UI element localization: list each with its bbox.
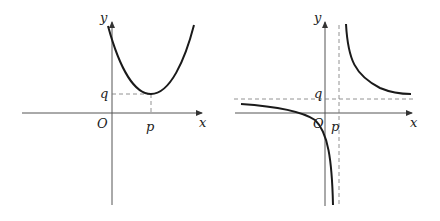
origin-label: O (97, 116, 108, 131)
y-label: y (313, 10, 322, 25)
parabola-curve (108, 25, 194, 94)
hyperbola-upper-branch (346, 24, 411, 94)
figure: y x O p q y x O p q (0, 0, 440, 221)
q-label: q (314, 86, 322, 101)
p-label: p (146, 119, 155, 134)
p-label: p (331, 119, 340, 134)
q-label: q (100, 86, 108, 101)
x-label: x (410, 115, 418, 130)
origin-label: O (313, 116, 324, 131)
x-label: x (199, 115, 207, 130)
hyperbola-graph: y x O p q (234, 10, 418, 206)
y-label: y (99, 10, 108, 25)
parabola-graph: y x O p q (22, 10, 207, 205)
